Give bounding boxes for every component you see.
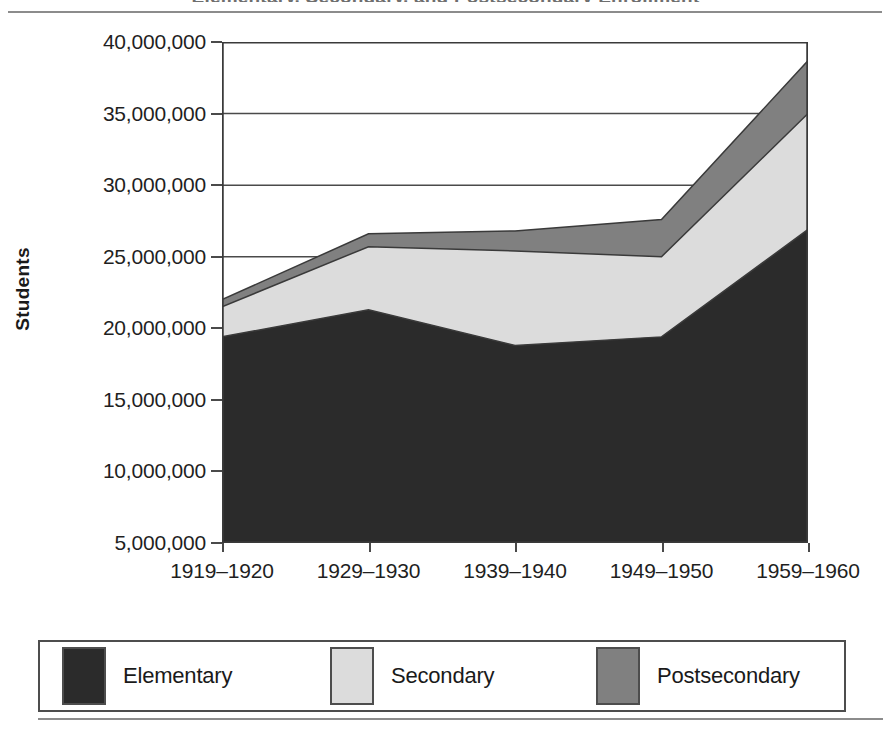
y-tick-mark-15000000 — [211, 399, 222, 401]
legend-entry-postsecondary: Postsecondary — [596, 647, 800, 705]
x-tick-mark-4 — [808, 543, 810, 552]
legend-entry-elementary: Elementary — [62, 647, 232, 705]
legend-swatch-postsecondary — [596, 647, 640, 705]
x-tick-mark-3 — [662, 543, 664, 552]
plot-svg — [222, 42, 808, 543]
x-tick-label-3: 1949–1950 — [610, 559, 713, 583]
x-tick-label-2: 1939–1940 — [463, 559, 566, 583]
y-tick-mark-35000000 — [211, 113, 222, 115]
y-tick-label-5000000: 5,000,000 — [114, 531, 206, 555]
y-tick-mark-5000000 — [211, 542, 222, 544]
legend-label-elementary: Elementary — [123, 663, 232, 689]
plot-area — [222, 42, 808, 543]
legend-entry-secondary: Secondary — [330, 647, 494, 705]
legend-label-postsecondary: Postsecondary — [657, 663, 800, 689]
x-axis-tick-layer: 1919–19201929–19301939–19401949–19501959… — [222, 543, 808, 593]
y-tick-mark-25000000 — [211, 256, 222, 258]
x-tick-mark-0 — [222, 543, 224, 552]
y-tick-mark-20000000 — [211, 327, 222, 329]
y-tick-mark-40000000 — [211, 41, 222, 43]
x-tick-label-0: 1919–1920 — [170, 559, 273, 583]
x-tick-mark-2 — [515, 543, 517, 552]
legend-swatch-elementary — [62, 647, 106, 705]
y-tick-label-40000000: 40,000,000 — [103, 30, 206, 54]
bottom-horizontal-rule — [38, 718, 883, 720]
y-tick-label-35000000: 35,000,000 — [103, 102, 206, 126]
y-tick-label-25000000: 25,000,000 — [103, 245, 206, 269]
legend-label-secondary: Secondary — [391, 663, 494, 689]
y-axis-tick-layer: 40,000,00035,000,00030,000,00025,000,000… — [0, 18, 222, 598]
legend: Elementary Secondary Postsecondary — [38, 640, 846, 712]
x-tick-label-1: 1929–1930 — [317, 559, 420, 583]
legend-swatch-secondary — [330, 647, 374, 705]
y-tick-label-30000000: 30,000,000 — [103, 173, 206, 197]
x-tick-mark-1 — [369, 543, 371, 552]
y-tick-mark-30000000 — [211, 184, 222, 186]
y-tick-label-15000000: 15,000,000 — [103, 388, 206, 412]
y-tick-mark-10000000 — [211, 470, 222, 472]
y-tick-label-20000000: 20,000,000 — [103, 316, 206, 340]
y-tick-label-10000000: 10,000,000 — [103, 459, 206, 483]
stacked-area-chart: Students 40,000,00035,000,00030,000,0002… — [0, 18, 891, 598]
x-tick-label-4: 1959–1960 — [756, 559, 859, 583]
top-horizontal-rule — [8, 11, 882, 13]
cropped-title-remnant: Elementary, Secondary, and Postsecondary… — [0, 0, 891, 2]
